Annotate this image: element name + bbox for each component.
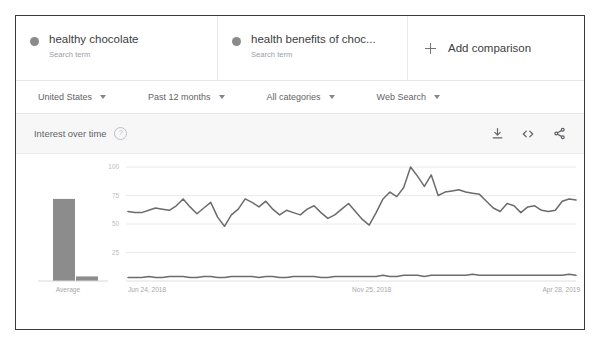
search-term-subtitle-1: Search term	[49, 49, 139, 61]
search-term-subtitle-2: Search term	[251, 49, 376, 61]
trends-panel: healthy chocolate Search term health ben…	[15, 15, 585, 330]
chevron-down-icon	[219, 95, 225, 99]
filter-category-label: All categories	[267, 92, 321, 102]
add-comparison-label: Add comparison	[448, 42, 531, 54]
chart-body: Average 255075100 Jun 24, 2018Nov 25, 20…	[16, 154, 584, 330]
search-term-card-1[interactable]: healthy chocolate Search term	[16, 16, 218, 80]
svg-text:50: 50	[112, 220, 120, 227]
average-label: Average	[56, 286, 81, 294]
filter-search-type[interactable]: Web Search	[377, 92, 440, 102]
average-bars-group: Average	[38, 199, 108, 294]
average-bar-1	[76, 276, 98, 281]
panel-actions	[490, 127, 566, 141]
share-icon[interactable]	[552, 127, 566, 141]
y-axis-labels: 255075100	[108, 163, 119, 256]
interest-over-time-header: Interest over time ?	[16, 114, 584, 154]
embed-icon[interactable]	[521, 127, 535, 141]
help-icon[interactable]: ?	[114, 127, 127, 140]
panel-title: Interest over time	[34, 128, 106, 139]
chevron-down-icon	[100, 95, 106, 99]
svg-text:Apr 28, 2019: Apr 28, 2019	[542, 286, 580, 294]
series-dot-icon	[30, 37, 39, 46]
search-term-card-2[interactable]: health benefits of choc... Search term	[218, 16, 408, 80]
average-bar-0	[53, 199, 75, 281]
chevron-down-icon	[434, 95, 440, 99]
x-axis-labels: Jun 24, 2018Nov 25, 2018Apr 28, 2019	[128, 286, 580, 294]
svg-text:75: 75	[112, 192, 120, 199]
svg-text:100: 100	[108, 163, 119, 170]
add-comparison-button[interactable]: Add comparison	[408, 16, 584, 80]
search-terms-row: healthy chocolate Search term health ben…	[16, 16, 584, 81]
filter-location-label: United States	[38, 92, 92, 102]
filter-timerange[interactable]: Past 12 months	[148, 92, 225, 102]
svg-text:Jun 24, 2018: Jun 24, 2018	[128, 286, 166, 293]
filter-timerange-label: Past 12 months	[148, 92, 211, 102]
series-lines-group	[128, 167, 576, 278]
filter-bar: United States Past 12 months All categor…	[16, 81, 584, 114]
download-icon[interactable]	[490, 127, 504, 141]
svg-text:Nov 25, 2018: Nov 25, 2018	[352, 286, 392, 293]
svg-text:25: 25	[112, 249, 120, 256]
series-line-1	[128, 274, 576, 277]
search-term-title-2: health benefits of choc...	[251, 33, 376, 46]
series-line-0	[128, 167, 576, 226]
chevron-down-icon	[329, 95, 335, 99]
interest-over-time-chart[interactable]: Average 255075100 Jun 24, 2018Nov 25, 20…	[16, 154, 584, 330]
filter-location[interactable]: United States	[38, 92, 106, 102]
filter-search-type-label: Web Search	[377, 92, 426, 102]
gridlines-group	[126, 167, 576, 281]
series-dot-icon	[232, 37, 241, 46]
search-term-title-1: healthy chocolate	[49, 33, 139, 46]
filter-category[interactable]: All categories	[267, 92, 335, 102]
plus-icon	[425, 43, 436, 54]
